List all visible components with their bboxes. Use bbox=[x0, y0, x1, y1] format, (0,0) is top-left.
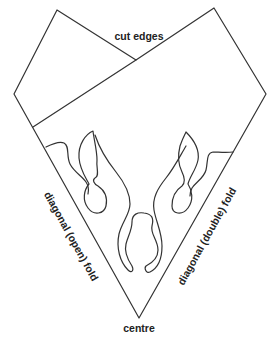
paper-outline bbox=[14, 8, 266, 318]
centre-label: centre bbox=[123, 322, 155, 334]
right-fold-label: diagonal (double) fold bbox=[175, 185, 239, 287]
left-wave-cut bbox=[46, 142, 89, 194]
folding-diagram: cut edges centre diagonal (open) fold di… bbox=[0, 0, 278, 347]
left-flame-cut bbox=[79, 131, 107, 213]
left-fold-label: diagonal (open) fold bbox=[42, 189, 101, 283]
right-flame-cut bbox=[172, 132, 198, 213]
diagram-canvas: cut edges centre diagonal (open) fold di… bbox=[0, 0, 278, 347]
cut-edges-label: cut edges bbox=[114, 30, 163, 42]
inner-fold-line bbox=[33, 60, 136, 127]
